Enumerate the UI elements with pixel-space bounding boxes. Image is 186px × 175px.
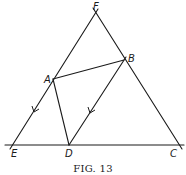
segment-fc xyxy=(93,8,182,149)
segment-bd xyxy=(69,57,126,145)
label-f: F xyxy=(93,1,99,12)
geometry-figure: F B A E D C FIG. 13 xyxy=(0,0,186,175)
label-a: A xyxy=(43,74,51,85)
label-d: D xyxy=(65,148,73,159)
label-b: B xyxy=(128,53,135,64)
label-e: E xyxy=(11,148,18,159)
figure-caption: FIG. 13 xyxy=(73,163,113,174)
label-c: C xyxy=(170,148,177,159)
segment-ad xyxy=(53,79,69,145)
